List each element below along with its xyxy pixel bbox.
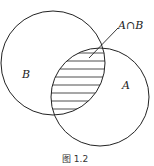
venn-diagram: A∩B B A 图 1.2 (0, 0, 154, 166)
intersection-hatching (40, 53, 120, 109)
intersection-pointer (89, 28, 118, 58)
intersection-label: A∩B (117, 19, 143, 32)
figure-caption: 图 1.2 (62, 154, 88, 164)
circle-b (1, 11, 105, 115)
circle-a (51, 48, 149, 146)
set-a-label: A (121, 79, 130, 92)
set-b-label: B (21, 68, 30, 81)
